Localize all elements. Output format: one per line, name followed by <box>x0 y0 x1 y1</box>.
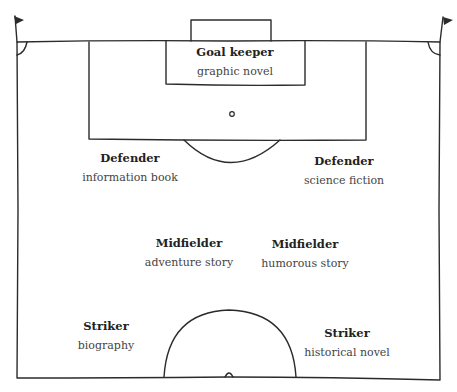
player-role: Defender <box>274 154 414 169</box>
corner-flag-right-icon <box>443 17 453 25</box>
corner-arc-right <box>428 42 440 55</box>
penalty-spot <box>230 112 235 117</box>
player-role: Goal keeper <box>165 45 305 60</box>
player-defender-left: Defender information book <box>60 151 200 185</box>
player-striker-right: Striker historical novel <box>277 326 417 360</box>
player-role: Striker <box>277 326 417 341</box>
player-midfielder-right: Midfielder humorous story <box>235 237 375 271</box>
player-genre: biography <box>36 338 176 353</box>
corner-flag-pole-right <box>440 17 443 42</box>
player-role: Midfielder <box>235 237 375 252</box>
player-genre: historical novel <box>277 345 417 360</box>
player-role: Defender <box>60 151 200 166</box>
player-defender-right: Defender science fiction <box>274 154 414 188</box>
player-genre: information book <box>60 170 200 185</box>
player-goalkeeper: Goal keeper graphic novel <box>165 45 305 79</box>
player-role: Striker <box>36 319 176 334</box>
player-genre: humorous story <box>235 256 375 271</box>
goal <box>191 20 271 41</box>
player-genre: graphic novel <box>165 64 305 79</box>
player-genre: science fiction <box>274 173 414 188</box>
corner-arc-left <box>17 42 27 55</box>
player-striker-left: Striker biography <box>36 319 176 353</box>
